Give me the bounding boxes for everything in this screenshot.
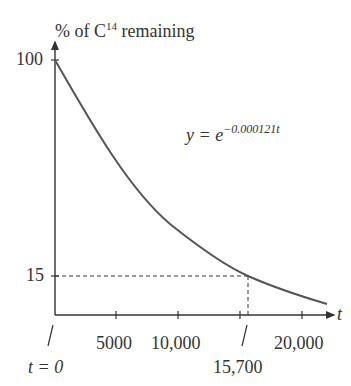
origin-label: t = 0: [28, 357, 63, 378]
chart-canvas: [0, 0, 351, 386]
ylabel-prefix: % of C: [55, 21, 106, 41]
ylabel-suffix: remaining: [117, 21, 194, 41]
equation: y = e−0.000121t: [186, 122, 280, 146]
x-tick-5000: 5000: [96, 333, 132, 354]
x-axis-label: t: [337, 304, 342, 325]
equation-base: y = e: [186, 125, 223, 145]
equation-exponent: −0.000121t: [223, 122, 279, 136]
x-tick-10000: 10,000: [151, 333, 201, 354]
ylabel-superscript: 14: [106, 20, 117, 32]
x-tick-20000: 20,000: [274, 333, 324, 354]
y-tick-15: 15: [26, 265, 44, 286]
y-axis-label: % of C14 remaining: [55, 20, 194, 42]
y-tick-100: 100: [16, 49, 43, 70]
decay-curve: [55, 60, 327, 304]
marked-x-label: 15,700: [213, 357, 263, 378]
